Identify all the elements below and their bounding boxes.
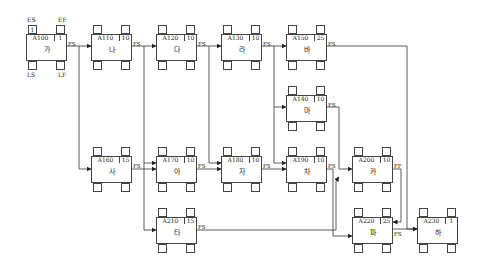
ls-cell (288, 183, 297, 192)
activity-node-a130[interactable]: A13010라 (221, 25, 262, 70)
activity-name: 바 (286, 41, 327, 61)
es-cell (93, 25, 102, 34)
lf-cell (121, 61, 130, 70)
edge-a140-a200 (327, 107, 352, 169)
lf-cell (382, 244, 391, 253)
es-cell (158, 25, 167, 34)
relation-label: FS (328, 41, 336, 47)
ef-cell (316, 147, 325, 156)
lf-cell (382, 183, 391, 192)
edge-a120-a180 (209, 46, 221, 163)
es-cell (354, 147, 363, 156)
es-cell (288, 25, 297, 34)
es-cell (419, 208, 428, 217)
activity-node-a140[interactable]: A14010마 (286, 86, 327, 131)
edge-a110-a210 (144, 163, 156, 230)
activity-name: 마 (286, 102, 327, 122)
lf-cell (251, 61, 260, 70)
activity-node-a120[interactable]: A12010다 (156, 25, 197, 70)
legend-es-label: ES (27, 17, 36, 23)
ef-cell (316, 25, 325, 34)
activity-name: 아 (156, 163, 197, 183)
relation-label: FS (394, 231, 402, 237)
ef-cell (186, 208, 195, 217)
es-cell (93, 147, 102, 156)
ef-cell (251, 147, 260, 156)
activity-node-a160[interactable]: A16015사 (91, 147, 132, 192)
lf-cell (316, 122, 325, 131)
lf-cell (186, 244, 195, 253)
ls-cell (288, 122, 297, 131)
es-cell (288, 86, 297, 95)
ef-cell (56, 25, 65, 34)
es-cell (223, 147, 232, 156)
legend-ef-label: EF (58, 17, 67, 23)
es-cell (288, 147, 297, 156)
edge-a200-a220 (393, 169, 401, 222)
ls-cell (223, 183, 232, 192)
activity-name: 파 (352, 224, 393, 244)
es-cell (158, 147, 167, 156)
activity-node-a110[interactable]: A11010나 (91, 25, 132, 70)
ef-cell (382, 147, 391, 156)
lf-cell (186, 61, 195, 70)
activity-node-a200[interactable]: A20010카 (352, 147, 393, 192)
relation-label: FS (198, 224, 206, 230)
edge-a130-a190 (274, 107, 286, 163)
edge-a130-a140 (274, 46, 286, 107)
relation-label: FF (394, 163, 402, 169)
activity-node-a190[interactable]: A19010차 (286, 147, 327, 192)
edge-a150-a230 (327, 46, 417, 229)
lf-cell (251, 183, 260, 192)
ls-cell (419, 244, 428, 253)
ef-cell (186, 25, 195, 34)
ef-cell (121, 147, 130, 156)
ls-cell (93, 183, 102, 192)
legend-ls-label: LS (27, 72, 35, 78)
ls-cell (158, 61, 167, 70)
activity-node-a100[interactable]: 1A1001가 (26, 25, 67, 70)
activity-name: 하 (417, 224, 458, 244)
relation-label: FS (68, 41, 76, 47)
activity-node-a230[interactable]: A2301하 (417, 208, 458, 253)
ef-cell (316, 86, 325, 95)
activity-node-a210[interactable]: A21015타 (156, 208, 197, 253)
activity-name: 차 (286, 163, 327, 183)
ls-cell (158, 244, 167, 253)
lf-cell (447, 244, 456, 253)
activity-name: 타 (156, 224, 197, 244)
ls-cell (354, 183, 363, 192)
activity-node-a220[interactable]: A22025파 (352, 208, 393, 253)
activity-node-a170[interactable]: A17010아 (156, 147, 197, 192)
relation-label: FS (198, 41, 206, 47)
lf-cell (186, 183, 195, 192)
relation-label: FS (133, 163, 141, 169)
activity-name: 나 (91, 41, 132, 61)
lf-cell (316, 61, 325, 70)
relation-label: FS (133, 41, 141, 47)
activity-name: 자 (221, 163, 262, 183)
relation-label: FS (263, 163, 271, 169)
ef-cell (251, 25, 260, 34)
ls-cell (93, 61, 102, 70)
ef-cell (121, 25, 130, 34)
ls-cell (158, 183, 167, 192)
relation-label: FS (263, 41, 271, 47)
activity-node-a150[interactable]: A15025바 (286, 25, 327, 70)
activity-node-a180[interactable]: A18010자 (221, 147, 262, 192)
es-cell (223, 25, 232, 34)
ef-cell (447, 208, 456, 217)
edge-a110-a170 (144, 46, 156, 163)
activity-name: 다 (156, 41, 197, 61)
ls-cell (288, 61, 297, 70)
relation-label: FS (198, 163, 206, 169)
activity-name: 카 (352, 163, 393, 183)
es-cell (158, 208, 167, 217)
lf-cell (56, 61, 65, 70)
ls-cell (223, 61, 232, 70)
ls-cell (28, 61, 37, 70)
ls-cell (354, 244, 363, 253)
lf-cell (121, 183, 130, 192)
lf-cell (316, 183, 325, 192)
es-cell (354, 208, 363, 217)
